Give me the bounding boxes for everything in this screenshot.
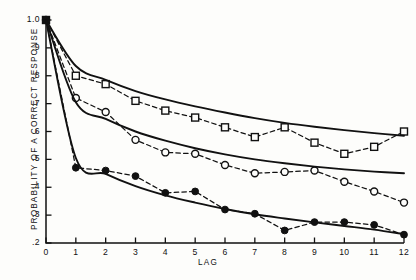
data-point-open-circle bbox=[192, 150, 199, 157]
data-point-open-circle bbox=[222, 161, 229, 168]
data-point-open-square bbox=[132, 97, 139, 104]
data-point-open-circle bbox=[251, 170, 258, 177]
data-point-open-square bbox=[72, 72, 79, 79]
figure-chart: PROBABILITY OF A CORRECT RESPONSE LAG .2… bbox=[0, 0, 416, 280]
y-tick-label: .9 bbox=[14, 42, 40, 52]
data-point-filled-circle bbox=[341, 219, 348, 226]
data-point-open-circle bbox=[102, 108, 109, 115]
data-point-open-circle bbox=[281, 168, 288, 175]
data-point-filled-circle bbox=[371, 221, 378, 228]
x-tick-label: 0 bbox=[34, 247, 58, 257]
x-tick-label: 6 bbox=[213, 247, 237, 257]
data-point-open-circle bbox=[311, 167, 318, 174]
data-point-open-square bbox=[281, 124, 288, 131]
series-observed-open-square bbox=[43, 17, 408, 158]
data-point-open-square bbox=[162, 107, 169, 114]
x-tick-label: 11 bbox=[362, 247, 386, 257]
x-axis-title: LAG bbox=[0, 258, 416, 267]
data-point-open-square bbox=[222, 124, 229, 131]
data-point-filled-circle bbox=[281, 227, 288, 234]
x-tick-label: 10 bbox=[332, 247, 356, 257]
x-tick-label: 4 bbox=[153, 247, 177, 257]
data-point-open-circle bbox=[132, 136, 139, 143]
data-point-open-circle bbox=[341, 178, 348, 185]
x-tick-label: 12 bbox=[392, 247, 416, 257]
data-point-open-square bbox=[371, 143, 378, 150]
x-tick-label: 2 bbox=[94, 247, 118, 257]
series-observed-open-circle bbox=[43, 17, 408, 207]
data-point-open-circle bbox=[371, 188, 378, 195]
data-point-filled-circle bbox=[132, 173, 139, 180]
x-tick-label: 9 bbox=[303, 247, 327, 257]
y-tick-label: 1.0 bbox=[14, 14, 40, 24]
x-tick-label: 3 bbox=[124, 247, 148, 257]
series-predicted-middle bbox=[46, 20, 404, 173]
x-tick-label: 1 bbox=[64, 247, 88, 257]
x-tick-label: 8 bbox=[273, 247, 297, 257]
y-tick-label: .7 bbox=[14, 98, 40, 108]
y-tick-label: .8 bbox=[14, 70, 40, 80]
x-tick-label: 7 bbox=[243, 247, 267, 257]
data-point-filled-circle bbox=[192, 188, 199, 195]
data-point-open-square bbox=[341, 150, 348, 157]
y-tick-label: .2 bbox=[14, 237, 40, 247]
y-tick-label: .3 bbox=[14, 209, 40, 219]
data-point-open-circle bbox=[162, 149, 169, 156]
y-tick-label: .4 bbox=[14, 181, 40, 191]
plot-area bbox=[0, 0, 416, 280]
y-tick-label: .5 bbox=[14, 153, 40, 163]
data-point-open-square bbox=[251, 134, 258, 141]
data-point-open-circle bbox=[401, 199, 408, 206]
data-point-open-square bbox=[311, 139, 318, 146]
x-tick-label: 5 bbox=[183, 247, 207, 257]
y-tick-label: .6 bbox=[14, 126, 40, 136]
series-predicted-upper bbox=[46, 20, 404, 136]
data-point-open-square bbox=[192, 114, 199, 121]
data-point-open-square bbox=[401, 128, 408, 135]
series-layer bbox=[43, 17, 408, 239]
